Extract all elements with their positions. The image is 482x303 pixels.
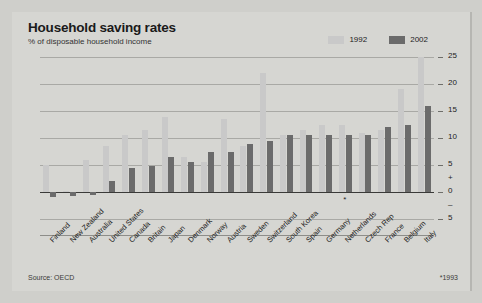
netherlands-footnote-asterisk: * xyxy=(343,195,346,204)
bar-belgium-2002 xyxy=(405,125,411,193)
y-tick-25 xyxy=(438,57,443,58)
bar-australia-1992 xyxy=(83,160,89,192)
bar-germany-2002 xyxy=(326,135,332,192)
bar-switzerland-2002 xyxy=(267,141,273,192)
bar-spain-2002 xyxy=(306,135,312,192)
chart-plot-area: 50510152025+– xyxy=(40,57,434,219)
bar-new-zealand-2002 xyxy=(70,192,76,196)
bar-norway-1992 xyxy=(201,162,207,192)
chart-card: Household saving rates % of disposable h… xyxy=(12,12,472,291)
bar-sweden-2002 xyxy=(247,144,253,192)
chart-legend: 1992 2002 xyxy=(328,35,428,44)
y-axis-label-20: 20 xyxy=(448,78,457,87)
y-tick--5 xyxy=(438,219,443,220)
bar-united-states-2002 xyxy=(109,181,115,192)
zero-axis-line xyxy=(40,192,434,193)
gridline-20 xyxy=(40,84,434,85)
bar-belgium-1992 xyxy=(398,89,404,192)
y-axis-sign-plus: + xyxy=(448,173,453,182)
bar-norway-2002 xyxy=(208,152,214,193)
bar-italy-2002 xyxy=(425,106,431,192)
gridline-25 xyxy=(40,57,434,58)
legend-label-2002: 2002 xyxy=(410,35,428,44)
legend-swatch-1992 xyxy=(328,36,344,44)
bar-britain-1992 xyxy=(142,130,148,192)
bar-south-korea-1992 xyxy=(280,135,286,192)
bar-south-korea-2002 xyxy=(287,135,293,192)
y-tick-0 xyxy=(438,192,443,193)
bar-sweden-1992 xyxy=(240,146,246,192)
gridline-15 xyxy=(40,111,434,112)
source-note: Source: OECD xyxy=(28,274,74,281)
bar-czech-rep-1992 xyxy=(359,133,365,192)
bar-austria-2002 xyxy=(228,152,234,193)
bar-spain-1992 xyxy=(300,130,306,192)
x-axis-label-italy: Italy xyxy=(422,228,438,244)
bar-switzerland-1992 xyxy=(260,73,266,192)
bar-canada-1992 xyxy=(122,135,128,192)
bar-japan-2002 xyxy=(168,157,174,192)
bar-new-zealand-1992 xyxy=(63,191,69,192)
gridline-10 xyxy=(40,138,434,139)
y-axis-sign-minus: – xyxy=(448,200,452,209)
footnote: *1993 xyxy=(440,274,458,281)
y-axis-label-25: 25 xyxy=(448,51,457,60)
bar-finland-1992 xyxy=(43,165,49,192)
bar-netherlands-2002 xyxy=(346,135,352,192)
legend-item-2002: 2002 xyxy=(389,35,428,44)
legend-item-1992: 1992 xyxy=(328,35,367,44)
gridline-5 xyxy=(40,165,434,166)
x-axis-label-japan: Japan xyxy=(166,224,187,245)
page-title: Household saving rates xyxy=(28,20,176,35)
bar-france-1992 xyxy=(378,130,384,192)
y-tick-20 xyxy=(438,84,443,85)
y-axis-label-0: 0 xyxy=(448,186,452,195)
bar-france-2002 xyxy=(385,127,391,192)
bar-germany-1992 xyxy=(319,125,325,193)
bar-netherlands-1992 xyxy=(339,125,345,193)
bar-canada-2002 xyxy=(129,168,135,192)
bar-australia-2002 xyxy=(90,192,96,195)
bar-britain-2002 xyxy=(149,166,155,192)
bar-finland-2002 xyxy=(50,192,56,197)
y-axis-label-10: 10 xyxy=(448,132,457,141)
bar-czech-rep-2002 xyxy=(365,135,371,192)
y-tick-5 xyxy=(438,165,443,166)
bar-japan-1992 xyxy=(162,117,168,192)
y-axis-label--5: 5 xyxy=(448,213,452,222)
y-axis-label-5: 5 xyxy=(448,159,452,168)
x-axis-label-finland: Finland xyxy=(48,221,72,245)
chart-subtitle: % of disposable household income xyxy=(28,37,152,46)
bar-denmark-2002 xyxy=(188,162,194,192)
legend-label-1992: 1992 xyxy=(349,35,367,44)
y-tick-10 xyxy=(438,138,443,139)
y-axis-label-15: 15 xyxy=(448,105,457,114)
bar-italy-1992 xyxy=(418,57,424,192)
bar-denmark-1992 xyxy=(181,157,187,192)
legend-swatch-2002 xyxy=(389,36,405,44)
bar-austria-1992 xyxy=(221,119,227,192)
bar-united-states-1992 xyxy=(103,146,109,192)
y-tick-15 xyxy=(438,111,443,112)
